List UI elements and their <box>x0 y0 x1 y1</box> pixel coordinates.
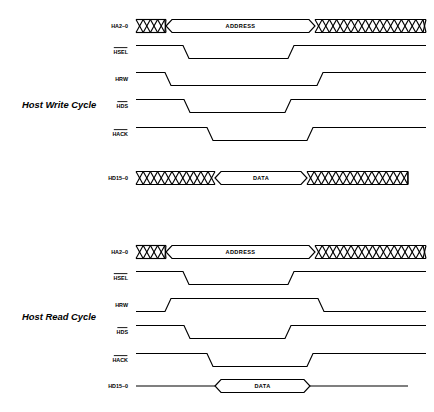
cycle-title-write: Host Write Cycle <box>22 99 96 110</box>
signal-row-read-hsel: HSEL <box>114 272 426 285</box>
signal-label-hrw: HRW <box>115 76 129 82</box>
bus-hatched-region <box>136 172 215 185</box>
waveform-hd15-0: DATA <box>136 172 408 185</box>
signal-label-hrw: HRW <box>115 302 129 308</box>
signal-label-hds: HDS <box>117 329 129 335</box>
bus-value-text: DATA <box>253 175 269 181</box>
signal-row-write-hrw: HRW <box>115 73 426 86</box>
timing-diagram-figure: Host Write CycleHA2–0ADDRESSHSELHRWHDSHA… <box>0 0 434 412</box>
signal-label-hd15-0: HD15–0 <box>108 383 128 389</box>
waveform-hsel <box>136 272 426 285</box>
waveform-ha2-0: ADDRESS <box>136 20 426 33</box>
timing-diagram-canvas: Host Write CycleHA2–0ADDRESSHSELHRWHDSHA… <box>0 0 434 412</box>
waveform-hrw <box>136 73 426 86</box>
signal-row-read-hd15-0: HD15–0DATA <box>108 380 408 393</box>
signal-label-hd15-0: HD15–0 <box>108 175 128 181</box>
waveform-hsel <box>136 46 426 59</box>
signal-row-write-hsel: HSEL <box>114 46 426 59</box>
waveform-hd15-0: DATA <box>136 380 408 393</box>
bus-valid-region: DATA <box>215 380 310 393</box>
signal-label-ha2-0: HA2–0 <box>111 23 128 29</box>
signal-row-write-ha2-0: HA2–0ADDRESS <box>111 20 426 33</box>
waveform-hds <box>136 100 426 113</box>
bus-valid-region: ADDRESS <box>166 20 315 33</box>
signal-row-read-ha2-0: HA2–0ADDRESS <box>111 246 426 259</box>
bus-valid-region: DATA <box>215 172 307 185</box>
signal-label-hsel: HSEL <box>114 49 129 55</box>
signal-label-hds: HDS <box>117 103 129 109</box>
bus-value-text: ADDRESS <box>226 249 256 255</box>
bus-value-text: DATA <box>254 383 270 389</box>
waveform-hds <box>136 326 426 339</box>
signal-row-write-hack: HACK <box>112 128 426 141</box>
bus-hatched-region <box>315 246 426 259</box>
waveform-hack <box>136 354 426 367</box>
signal-row-read-hds: HDS <box>117 326 426 339</box>
waveform-hrw <box>136 299 426 312</box>
bus-hatched-region <box>315 20 426 33</box>
cycle-group-read: Host Read CycleHA2–0ADDRESSHSELHRWHDSHAC… <box>22 246 426 393</box>
waveform-hack <box>136 128 426 141</box>
signal-row-read-hack: HACK <box>112 354 426 367</box>
signal-label-ha2-0: HA2–0 <box>111 249 128 255</box>
bus-hatched-region <box>136 246 166 259</box>
signal-row-write-hd15-0: HD15–0DATA <box>108 172 408 185</box>
signal-row-read-hrw: HRW <box>115 299 426 312</box>
signal-row-write-hds: HDS <box>117 100 426 113</box>
signal-label-hack: HACK <box>112 131 128 137</box>
bus-valid-region: ADDRESS <box>166 246 315 259</box>
bus-hatched-region <box>307 172 408 185</box>
waveform-ha2-0: ADDRESS <box>136 246 426 259</box>
signal-label-hsel: HSEL <box>114 275 129 281</box>
bus-hatched-region <box>136 20 166 33</box>
signal-label-hack: HACK <box>112 357 128 363</box>
cycle-title-read: Host Read Cycle <box>22 311 96 322</box>
cycle-group-write: Host Write CycleHA2–0ADDRESSHSELHRWHDSHA… <box>22 20 426 185</box>
bus-value-text: ADDRESS <box>226 23 256 29</box>
